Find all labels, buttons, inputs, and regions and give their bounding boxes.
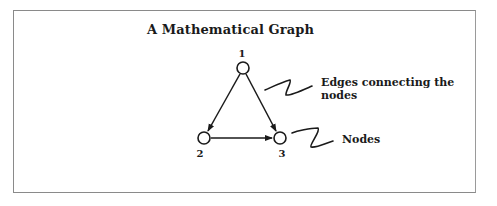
graph-canvas — [0, 0, 497, 206]
node-3-label: 3 — [276, 148, 288, 159]
edges-annotation: Edges connecting the nodes — [321, 76, 454, 102]
node-2-label: 2 — [194, 148, 206, 159]
edges-annotation-line1: Edges connecting the — [321, 76, 454, 89]
edge-1-2 — [208, 74, 240, 131]
node-2 — [198, 132, 210, 144]
node-1-label: 1 — [236, 48, 248, 59]
node-1 — [237, 62, 249, 74]
edges-pointer-squiggle — [265, 80, 312, 95]
edge-1-3 — [246, 74, 276, 131]
node-3 — [274, 132, 286, 144]
nodes-annotation: Nodes — [342, 133, 380, 146]
nodes-pointer-squiggle — [292, 128, 333, 147]
edges-annotation-line2: nodes — [321, 89, 454, 102]
